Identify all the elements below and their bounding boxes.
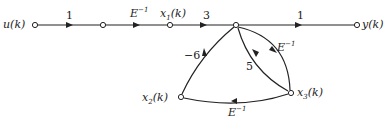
node-x2 (178, 94, 183, 99)
gain-label: 5 (246, 61, 253, 72)
gain-label: −6 (184, 50, 200, 61)
node-y (354, 22, 359, 27)
node-x1 (167, 22, 172, 27)
arrow-icon (295, 22, 302, 28)
gain-label: 3 (203, 10, 210, 21)
node-label-x3: x3(k) (297, 87, 323, 98)
arrow-icon (133, 22, 140, 28)
node-label-u: u(k) (3, 19, 25, 30)
gain-label: E−1 (228, 107, 246, 118)
node-u (32, 22, 37, 27)
arrow-icon (66, 22, 73, 28)
node-n1 (100, 22, 105, 27)
gain-label: E−1 (130, 8, 148, 19)
signal-flow-graph: u(k) x1(k) y(k) x2(k) x3(k) 1 E−1 3 1 E−… (0, 0, 392, 127)
gain-label: E−1 (277, 42, 295, 53)
node-label-x1: x1(k) (160, 8, 186, 19)
node-label-y: y(k) (362, 19, 383, 30)
arrow-icon (269, 46, 277, 53)
edge-n2-x3 (238, 27, 290, 90)
arrow-icon (200, 22, 207, 28)
gain-label: 1 (297, 10, 304, 21)
node-label-x2: x2(k) (142, 92, 168, 103)
arrow-icon (252, 49, 259, 57)
gain-label: 1 (66, 10, 73, 21)
arrow-icon (202, 48, 207, 56)
graph-edges (0, 0, 392, 127)
node-n2 (233, 22, 238, 27)
node-x3 (288, 90, 293, 95)
